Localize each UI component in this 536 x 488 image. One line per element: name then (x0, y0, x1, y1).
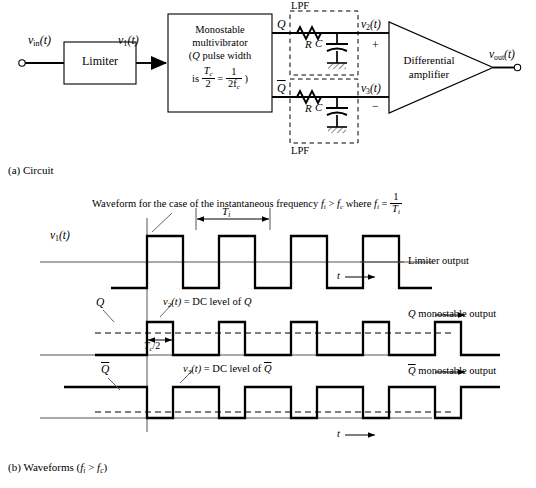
q-leader-line (103, 310, 114, 322)
qbar-pulse-waveform (64, 387, 500, 418)
qbar-leader-line (108, 378, 120, 390)
v1-waveform-label: v1(t) (50, 229, 70, 243)
limiter-output-label: Limiter output (408, 255, 469, 266)
v2-dc-level-label: v2(t) = DC level of Q (163, 296, 252, 309)
figure-fm-discriminator: vin(t) Limiter v1(t) Monostable multivib… (0, 0, 536, 488)
v1-leader-line (152, 213, 172, 232)
t-axis-label-row1: t (337, 270, 340, 281)
qbar-monostable-output-label: Q monostable output (408, 365, 496, 376)
Ti-label: Ti (222, 206, 230, 219)
v3-dc-level-label: v3(t) = DC level of Q (183, 363, 272, 376)
qbar-waveform-label: Q (101, 363, 109, 375)
q-monostable-output-label: Q monostable output (408, 308, 496, 319)
waveforms-linework (0, 0, 536, 488)
q-waveform-label: Q (96, 296, 104, 308)
Tc-half-label: Tc/2 (144, 341, 160, 352)
t-axis-label-row3: t (337, 428, 340, 439)
waveforms-caption: (b) Waveforms (fi > fc) (8, 462, 107, 475)
waveforms-heading: Waveform for the case of the instantaneo… (92, 192, 402, 215)
